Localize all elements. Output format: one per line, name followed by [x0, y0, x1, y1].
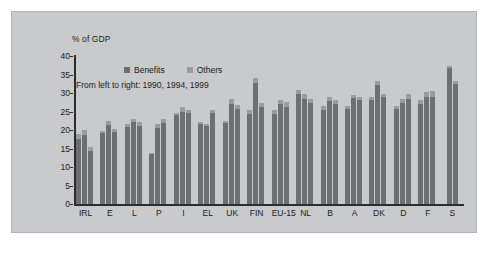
x-label-dk: DK [369, 208, 388, 218]
x-label-fin: FIN [247, 208, 266, 218]
bar-segment-benefits [447, 68, 452, 204]
bar-segment-benefits [400, 103, 405, 204]
bar-segment-benefits [394, 109, 399, 204]
bar-segment-benefits [272, 114, 277, 204]
bar-segment-benefits [321, 110, 326, 204]
bar-i-1990 [174, 113, 179, 204]
bar-a-1994 [351, 95, 356, 204]
bar-l-1990 [125, 124, 130, 204]
bar-group [443, 56, 462, 204]
bar-groups [76, 56, 462, 204]
y-tick-mark [70, 204, 73, 205]
y-tick-mark [70, 167, 73, 168]
bar-segment-benefits [155, 128, 160, 204]
bar-segment-benefits [308, 103, 313, 204]
bar-s-1990 [447, 66, 452, 204]
bar-segment-benefits [247, 114, 252, 204]
bar-e-1994 [106, 121, 111, 204]
x-label-uk: UK [223, 208, 242, 218]
bar-uk-1990 [223, 121, 228, 204]
bar-segment-benefits [333, 104, 338, 204]
bar-f-1990 [418, 100, 423, 204]
bar-el-1999 [210, 110, 215, 204]
bar-eu-15-1999 [284, 102, 289, 204]
bar-b-1994 [327, 97, 332, 204]
chart-figure: % of GDP 0510152025303540 Benefits Other… [11, 11, 477, 233]
bar-group [296, 56, 313, 204]
x-label-eu-15: EU-15 [272, 208, 291, 218]
bar-segment-benefits [278, 104, 283, 204]
bar-irl-1999 [88, 147, 93, 204]
bar-group [100, 56, 117, 204]
bar-group [369, 56, 386, 204]
bar-b-1990 [321, 106, 326, 204]
bar-a-1990 [345, 106, 350, 204]
y-tick-mark [70, 56, 73, 57]
bar-f-1999 [430, 91, 435, 204]
bar-dk-1990 [369, 97, 374, 204]
bar-segment-benefits [82, 135, 87, 204]
bar-s-1999 [453, 81, 458, 204]
bar-segment-benefits [76, 139, 81, 204]
bar-eu-15-1990 [272, 110, 277, 204]
x-label-s: S [443, 208, 462, 218]
y-tick-label: 0 [48, 199, 70, 209]
bar-l-1999 [137, 122, 142, 204]
bar-segment-benefits [204, 126, 209, 204]
bar-segment-benefits [210, 113, 215, 204]
y-tick-mark [70, 149, 73, 150]
x-label-nl: NL [296, 208, 315, 218]
x-label-l: L [125, 208, 144, 218]
bar-segment-benefits [424, 97, 429, 204]
bar-group [76, 56, 93, 204]
bar-i-1994 [180, 107, 185, 204]
bar-segment-benefits [453, 84, 458, 204]
y-tick-mark [70, 130, 73, 131]
bar-segment-benefits [357, 100, 362, 204]
bar-segment-benefits [296, 94, 301, 204]
bar-e-1999 [112, 129, 117, 204]
bar-fin-1994 [253, 78, 258, 204]
y-tick-label: 40 [48, 51, 70, 61]
bar-group [223, 56, 240, 204]
bar-segment-benefits [131, 122, 136, 204]
y-tick-label: 5 [48, 181, 70, 191]
x-label-i: I [174, 208, 193, 218]
bar-group [174, 56, 191, 204]
bar-dk-1994 [375, 81, 380, 204]
bar-segment-benefits [88, 151, 93, 204]
bar-segment-benefits [351, 98, 356, 204]
chart-root: % of GDP 0510152025303540 Benefits Other… [0, 0, 494, 257]
bar-nl-1994 [302, 94, 307, 204]
bar-b-1999 [333, 100, 338, 204]
bar-p-1999 [161, 119, 166, 204]
bar-d-1994 [400, 99, 405, 204]
bar-group [149, 56, 166, 204]
bar-d-1990 [394, 106, 399, 204]
bar-el-1990 [198, 122, 203, 205]
bar-segment-benefits [345, 109, 350, 204]
y-tick-label: 30 [48, 88, 70, 98]
y-tick-label: 35 [48, 70, 70, 80]
bar-segment-benefits [375, 85, 380, 204]
x-label-irl: IRL [76, 208, 95, 218]
y-tick-mark [70, 186, 73, 187]
bar-p-1990 [149, 153, 154, 204]
bar-group [247, 56, 264, 204]
y-axis-title: % of GDP [72, 34, 111, 44]
bar-segment-benefits [106, 125, 111, 204]
bar-fin-1999 [259, 103, 264, 204]
bar-segment-benefits [430, 97, 435, 204]
bar-irl-1990 [76, 134, 81, 204]
bar-segment-benefits [125, 127, 130, 204]
x-label-a: A [345, 208, 364, 218]
bar-segment-benefits [112, 132, 117, 204]
bar-group [125, 56, 142, 204]
bar-dk-1999 [381, 94, 386, 204]
bar-segment-benefits [161, 123, 166, 204]
y-axis-ticks: 0510152025303540 [46, 56, 70, 204]
bar-d-1999 [406, 94, 411, 204]
bar-fin-1990 [247, 110, 252, 204]
bar-group [418, 56, 435, 204]
x-label-p: P [149, 208, 168, 218]
